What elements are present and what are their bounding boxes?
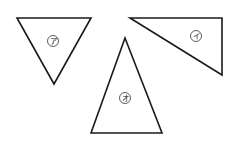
triangle-o: オ — [91, 38, 162, 133]
triangle-i-label: イ — [193, 32, 200, 41]
triangle-i: イ — [130, 18, 222, 75]
triangles-diagram: ア イ オ — [0, 0, 239, 150]
triangle-o-shape — [91, 38, 162, 133]
triangle-a: ア — [17, 18, 91, 84]
triangle-o-label: オ — [122, 94, 129, 103]
triangle-i-shape — [130, 18, 222, 75]
triangle-a-shape — [17, 18, 91, 84]
triangle-a-label: ア — [50, 37, 57, 46]
